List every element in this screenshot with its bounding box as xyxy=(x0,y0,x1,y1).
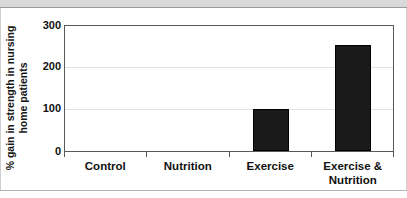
y-tick-label-300: 300 xyxy=(31,20,61,31)
x-tick-0 xyxy=(64,152,65,157)
x-label-exercise: Exercise xyxy=(229,159,312,195)
plot-area xyxy=(64,25,394,152)
x-label-control: Control xyxy=(64,159,147,195)
bar-exercise-nutrition xyxy=(335,45,371,151)
y-tick-label-100: 100 xyxy=(31,103,61,114)
y-axis-title-line-1: % gain in strength in nursing xyxy=(4,25,17,170)
y-axis-title-line-2: home patients xyxy=(17,25,30,170)
x-label-nutrition: Nutrition xyxy=(147,159,230,195)
x-tick-2 xyxy=(229,152,230,157)
x-tick-1 xyxy=(146,152,147,157)
x-axis-labels: Control Nutrition Exercise Exercise & Nu… xyxy=(64,159,394,195)
x-tick-4 xyxy=(393,152,394,157)
page-top-band xyxy=(0,0,407,7)
x-label-exercise-nutrition: Exercise & Nutrition xyxy=(312,159,395,195)
page-left-rail xyxy=(0,8,1,190)
x-tick-3 xyxy=(311,152,312,157)
y-axis-tick-labels: 300 200 100 0 xyxy=(30,0,61,198)
y-tick-label-0: 0 xyxy=(31,146,61,157)
bar-exercise xyxy=(253,109,289,151)
chart-screenshot: % gain in strength in nursing home patie… xyxy=(0,0,407,198)
y-tick-label-200: 200 xyxy=(31,61,61,72)
page-top-rule xyxy=(0,7,407,8)
y-axis-title: % gain in strength in nursing home patie… xyxy=(2,10,32,185)
